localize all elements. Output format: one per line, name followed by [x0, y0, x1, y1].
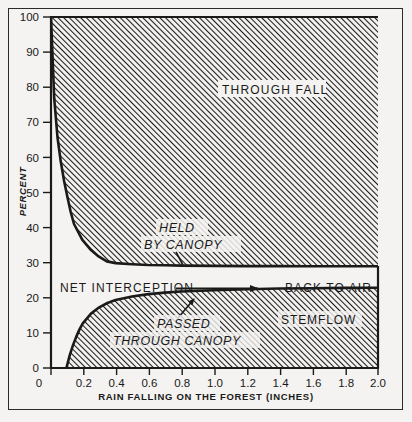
y-tick-label: 70	[26, 116, 39, 128]
x-tick-label: 0.2	[76, 377, 92, 389]
x-tick-label: 0.4	[109, 377, 126, 389]
y-tick-label: 80	[26, 81, 39, 93]
x-tick-label: 0.6	[141, 377, 157, 389]
through-fall-label: THROUGH FALL	[222, 83, 328, 97]
y-axis-title: PERCENT	[17, 152, 28, 232]
x-tick-label: 1.2	[240, 377, 256, 389]
x-tick-label: 1.0	[207, 377, 223, 389]
x-tick-label: 0	[36, 377, 42, 389]
y-tick-label: 0	[33, 362, 39, 374]
x-tick-label: 1.6	[305, 377, 321, 389]
passed-label: PASSED	[157, 317, 210, 331]
y-tick-label: 20	[26, 292, 39, 304]
through-fall-region	[50, 17, 378, 266]
y-tick-label: 90	[26, 46, 39, 58]
x-tick-label: 2.0	[370, 377, 386, 389]
held-by-canopy-label-line2: BY CANOPY	[144, 238, 223, 252]
x-tick-label: 1.4	[273, 377, 290, 389]
through-canopy-label: THROUGH CANOPY	[113, 334, 242, 348]
y-tick-label: 40	[26, 222, 39, 234]
stemflow-label: STEMFLOW	[281, 313, 356, 327]
net-interception-label: NET INTERCEPTION	[60, 281, 194, 295]
held-by-canopy-label-line1: HELD	[159, 221, 195, 235]
back-to-air-label: BACK TO AIR	[285, 281, 372, 295]
rain-interception-chart: 0 10 20 30 40 50 60 70 80 90 100 0 0.2 0…	[0, 0, 412, 422]
x-axis-title: RAIN FALLING ON THE FOREST (INCHES)	[0, 391, 412, 402]
y-tick-label: 60	[26, 152, 39, 164]
y-tick-label: 100	[20, 11, 39, 23]
y-tick-label: 50	[26, 187, 39, 199]
x-tick-label: 0.8	[174, 377, 190, 389]
x-tick-label: 1.8	[338, 377, 354, 389]
y-tick-label: 30	[26, 257, 39, 269]
y-axis-ticks	[43, 17, 51, 368]
y-tick-label: 10	[26, 327, 39, 339]
figure-container: 0 10 20 30 40 50 60 70 80 90 100 0 0.2 0…	[0, 0, 412, 422]
